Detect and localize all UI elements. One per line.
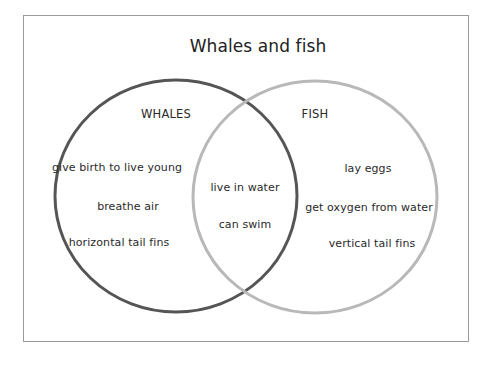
diagram-title: Whales and fish	[190, 38, 327, 55]
intersection-item: can swim	[219, 219, 272, 230]
fish-item: get oxygen from water	[305, 202, 433, 213]
whales-set-label: WHALES	[141, 109, 191, 121]
fish-item: vertical tail fins	[329, 238, 416, 249]
fish-set-label: FISH	[302, 109, 329, 121]
whales-item: breathe air	[97, 201, 159, 212]
whales-item: horizontal tail fins	[69, 237, 170, 248]
fish-item: lay eggs	[344, 163, 391, 174]
whales-item: give birth to live young	[52, 162, 182, 173]
intersection-item: live in water	[210, 182, 279, 193]
